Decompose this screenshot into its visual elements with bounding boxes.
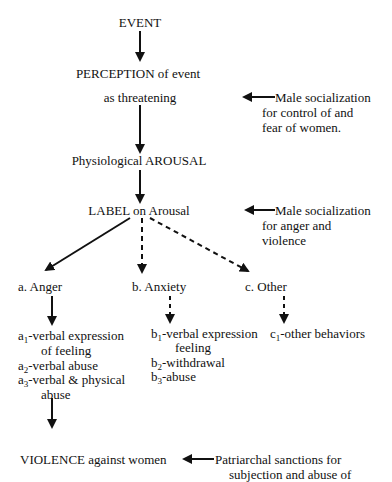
anxiety-item-1-cont: feeling [175, 340, 211, 355]
side-note-2-line3: violence [262, 233, 306, 248]
side-note-2-line2: for anger and [262, 218, 331, 233]
node-event: EVENT [119, 15, 162, 30]
anger-item-2: a2-verbal abuse [18, 358, 98, 373]
node-label: LABEL on Arousal [88, 203, 189, 218]
anger-item-1: a1-verbal expression [18, 328, 124, 343]
side-note-3-line2: subjection and abuse of [229, 467, 351, 482]
anger-item-1-cont: of feeling [41, 343, 91, 358]
node-perception-line2: as threatening [104, 90, 177, 105]
side-note-1-line1: Male socialization [275, 90, 371, 105]
node-perception-line1: PERCEPTION of event [76, 66, 200, 81]
branch-anger-title: a. Anger [18, 279, 62, 294]
branch-anxiety-title: b. Anxiety [132, 279, 186, 294]
branch-other-title: c. Other [245, 279, 287, 294]
side-note-3-line1: Patriarchal sanctions for [215, 452, 341, 467]
anger-item-3-cont: abuse [41, 387, 71, 402]
side-note-2-line1: Male socialization [275, 203, 371, 218]
arrow-label-to-other [150, 218, 248, 271]
side-note-1-line2: for control of and [262, 105, 353, 120]
arrow-label-to-anger [46, 218, 130, 270]
node-arousal: Physiological AROUSAL [72, 153, 207, 168]
anxiety-item-2: b2-withdrawal [151, 355, 225, 370]
anger-item-3: a3-verbal & physical [18, 372, 125, 387]
anxiety-item-3: b3-abuse [151, 369, 196, 384]
node-violence: VIOLENCE against women [20, 452, 167, 467]
anxiety-item-1: b1-verbal expression [151, 326, 258, 341]
other-item-1: c1-other behaviors [270, 326, 365, 341]
side-note-1-line3: fear of women. [262, 120, 341, 135]
